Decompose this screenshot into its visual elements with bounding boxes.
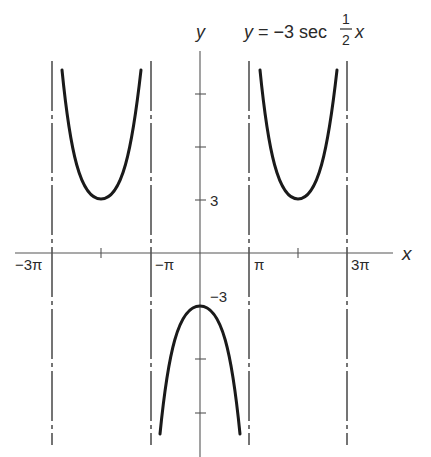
secant-graph: y x y = −3 sec 1 2 x −3π −π π 3π 3 −3 bbox=[0, 0, 431, 457]
x-tick-label-pi: π bbox=[254, 256, 264, 273]
axes bbox=[15, 51, 393, 457]
x-tick-label-neg3pi: −3π bbox=[15, 256, 42, 273]
x-axis-label: x bbox=[401, 243, 413, 264]
equation-label: y = −3 sec 1 2 x bbox=[242, 11, 365, 48]
equation-variable: x bbox=[354, 22, 365, 42]
y-axis-label: y bbox=[194, 22, 206, 42]
x-tick-label-negpi: −π bbox=[155, 256, 174, 273]
equation-lhs: y = −3 sec bbox=[242, 22, 327, 42]
curve-right-branch bbox=[260, 70, 337, 199]
x-tick-label-3pi: 3π bbox=[351, 256, 370, 273]
equation-fraction-denominator: 2 bbox=[342, 32, 350, 48]
y-tick-label-3: 3 bbox=[210, 192, 218, 209]
curve-left-branch bbox=[62, 70, 141, 199]
y-tick-label-neg3: −3 bbox=[210, 288, 227, 305]
equation-fraction-numerator: 1 bbox=[342, 11, 350, 27]
